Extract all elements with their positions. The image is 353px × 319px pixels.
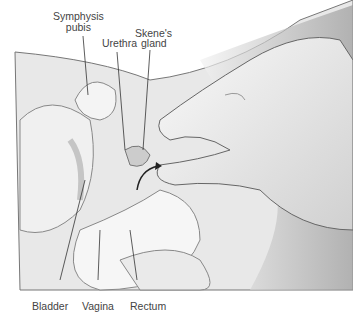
label-vagina: Vagina xyxy=(82,301,114,312)
label-bladder: Bladder xyxy=(32,301,68,312)
label-gland: gland xyxy=(141,38,167,49)
label-rectum: Rectum xyxy=(130,301,166,312)
anatomy-illustration xyxy=(0,0,353,319)
label-urethra: Urethra xyxy=(102,38,137,49)
label-symphysis-pubis: Symphysis pubis xyxy=(53,11,104,33)
pubis-text: pubis xyxy=(53,22,104,33)
